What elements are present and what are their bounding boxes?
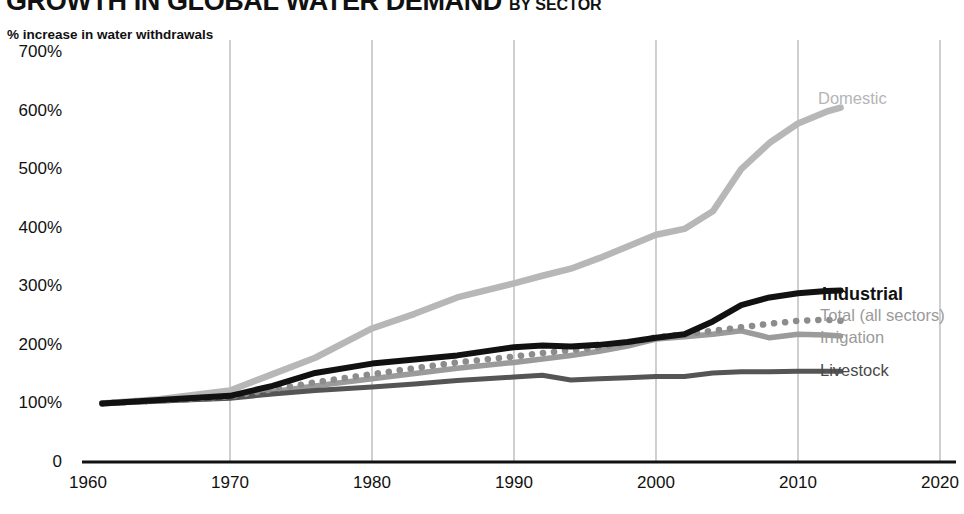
series-line-industrial (102, 290, 840, 403)
x-tick-1990: 1990 (479, 474, 549, 491)
x-tick-2020: 2020 (905, 474, 964, 491)
y-tick-700: 700% (0, 43, 62, 60)
y-tick-0: 0 (0, 453, 62, 470)
chart-page: GROWTH IN GLOBAL WATER DEMANDBY SECTOR %… (0, 0, 964, 514)
y-tick-400: 400% (0, 219, 62, 236)
series-label-industrial: Industrial (822, 285, 903, 303)
x-tick-1960: 1960 (53, 474, 123, 491)
chart-svg (0, 0, 964, 514)
y-tick-100: 100% (0, 394, 62, 411)
series-label-domestic: Domestic (818, 90, 887, 107)
y-tick-600: 600% (0, 102, 62, 119)
series-label-irrigation: Irrigation (820, 329, 884, 346)
series-label-livestock: Livestock (820, 362, 889, 379)
x-tick-1980: 1980 (337, 474, 407, 491)
series-label-total: Total (all sectors) (820, 307, 945, 324)
x-tick-1970: 1970 (195, 474, 265, 491)
y-tick-200: 200% (0, 336, 62, 353)
series-line-domestic (102, 108, 840, 404)
y-tick-500: 500% (0, 160, 62, 177)
x-tick-2010: 2010 (763, 474, 833, 491)
y-tick-300: 300% (0, 277, 62, 294)
series-lines (102, 108, 840, 404)
x-tick-2000: 2000 (621, 474, 691, 491)
